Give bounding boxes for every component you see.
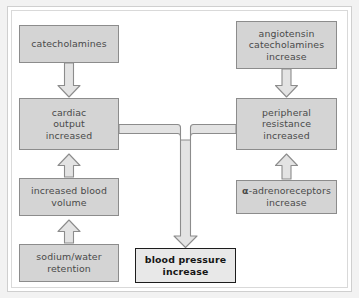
flow-diagram: catecholamines angiotensin catecholamine… xyxy=(0,0,359,298)
node-adrenoreceptors-label: α-adrenoreceptors increase xyxy=(237,185,336,208)
node-peripheral-resistance-label: peripheral resistance increased xyxy=(237,107,336,142)
node-adrenoreceptors-label-rest: -adrenoreceptors increase xyxy=(249,185,331,208)
node-catecholamines-label: catecholamines xyxy=(20,38,118,50)
node-blood-volume-label: increased blood volume xyxy=(20,185,118,208)
node-increased-blood-volume: increased blood volume xyxy=(19,178,119,216)
arrow-catecholamines-to-cardiac-output xyxy=(58,63,80,97)
arrow-adrenoreceptors-to-peripheral-resistance xyxy=(276,154,298,179)
figure-root: catecholamines angiotensin catecholamine… xyxy=(0,0,359,298)
arrow-sodium-water-to-blood-volume xyxy=(58,220,80,243)
arrow-angiotensin-to-peripheral-resistance xyxy=(276,69,298,97)
node-cardiac-output-increased: cardiac output increased xyxy=(19,98,119,150)
node-sodium-water-label: sodium/water retention xyxy=(20,251,118,274)
node-catecholamines: catecholamines xyxy=(19,25,119,63)
node-blood-pressure-label: blood pressure increase xyxy=(136,254,235,277)
node-peripheral-resistance-increased: peripheral resistance increased xyxy=(236,98,337,150)
node-sodium-water-retention: sodium/water retention xyxy=(19,244,119,282)
node-angiotensin-label: angiotensin catecholamines increase xyxy=(237,28,336,63)
arrow-blood-volume-to-cardiac-output xyxy=(58,154,80,177)
node-blood-pressure-increase: blood pressure increase xyxy=(135,248,236,283)
node-cardiac-output-label: cardiac output increased xyxy=(20,107,118,142)
arrow-merge-to-blood-pressure xyxy=(119,125,236,248)
node-alpha-adrenoreceptors-increase: α-adrenoreceptors increase xyxy=(236,180,337,214)
node-angiotensin-catecholamines-increase: angiotensin catecholamines increase xyxy=(236,21,337,69)
